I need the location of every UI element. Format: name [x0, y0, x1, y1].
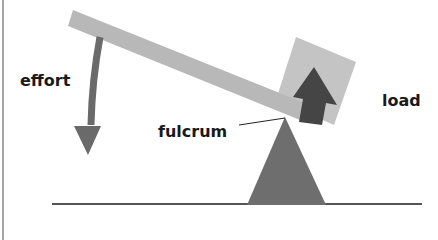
fulcrum-leader-line — [239, 118, 285, 125]
lever-beam — [68, 10, 312, 122]
lever-diagram — [0, 0, 438, 240]
load-label: load — [382, 91, 421, 110]
effort-arrow-shaft — [91, 37, 100, 125]
effort-label: effort — [20, 71, 70, 90]
fulcrum-label: fulcrum — [158, 122, 227, 141]
fulcrum-triangle — [247, 117, 326, 205]
effort-arrow-icon — [74, 126, 101, 155]
